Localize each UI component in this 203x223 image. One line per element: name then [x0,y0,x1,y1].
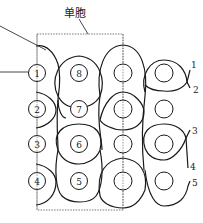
warp-end-2 [187,82,190,88]
warp-end-4 [186,138,188,168]
weave-structure-diagram: 1 2 3 4 8 7 6 5 1 2 3 4 5 [0,0,203,223]
warp-label-4: 4 [190,162,196,172]
weft-label-1: 1 [34,69,40,79]
title-leader-line [79,19,88,34]
warp-vertical-left-1 [57,100,58,150]
weft-circle-c4r2 [155,100,173,118]
warp-label-3: 3 [192,126,198,136]
weft-label-7: 7 [76,105,82,115]
weft-label-5: 5 [76,177,82,187]
weft-circle-c4r3 [155,135,173,153]
warp-label-2: 2 [193,85,199,95]
warp-end-1 [187,70,190,82]
weft-circle-c4r4 [155,172,173,190]
weft-label-3: 3 [34,140,40,150]
weft-label-2: 2 [34,105,40,115]
weft-circle-c4r1 [155,64,173,82]
warp-labels: 1 2 3 4 5 [190,60,199,188]
weft-labels: 1 2 3 4 8 7 6 5 [34,69,82,187]
warp-end-3 [186,130,190,138]
warp-label-5: 5 [192,178,198,188]
weft-label-8: 8 [76,69,82,79]
weft-label-6: 6 [76,140,82,150]
warp-label-1: 1 [191,60,197,70]
left-pointer-line-top [0,26,46,50]
weft-label-4: 4 [34,177,40,187]
